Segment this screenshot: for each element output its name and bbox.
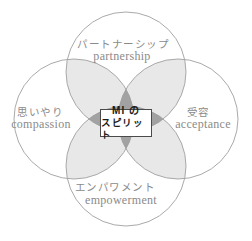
center-spirit-line2: スピリット — [101, 117, 151, 141]
label-compassion-en: compassion — [4, 118, 78, 131]
label-empowerment-jp: エンパワメント — [45, 182, 185, 193]
venn-diagram: パートナーシップ partnership 思いやり compassion 受容 … — [0, 0, 252, 241]
center-spirit-box: MI の スピリット — [100, 109, 152, 137]
label-partnership-en: partnership — [52, 50, 192, 63]
label-acceptance-en: acceptance — [166, 118, 240, 131]
label-empowerment-en: empowerment — [51, 194, 191, 207]
center-spirit-line1: MI の — [112, 105, 140, 117]
